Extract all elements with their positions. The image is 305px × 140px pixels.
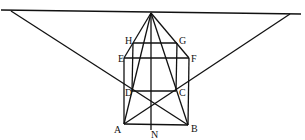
label-G: G	[179, 35, 186, 46]
label-D: D	[125, 87, 132, 98]
label-N: N	[151, 129, 158, 140]
label-H: H	[125, 35, 132, 46]
label-B: B	[191, 123, 198, 134]
label-C: C	[179, 87, 186, 98]
label-A: A	[114, 124, 122, 135]
label-E: E	[118, 53, 124, 64]
label-layer: A B N D C E F H G	[0, 0, 305, 140]
label-F: F	[191, 53, 197, 64]
